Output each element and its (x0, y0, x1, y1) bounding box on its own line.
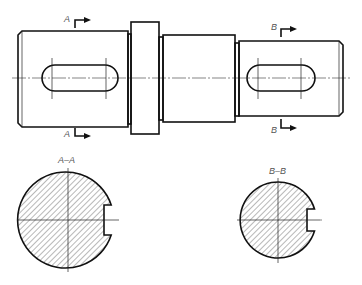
svg-text:A–A: A–A (57, 155, 75, 165)
svg-text:B: B (271, 125, 277, 135)
right-shaft-section (239, 41, 343, 116)
cut-indicator-b-bottom: B (271, 119, 297, 135)
shaft-drawing: A A B B A–A B–B (0, 0, 362, 285)
left-shaft-section (18, 31, 128, 127)
svg-text:A: A (63, 129, 70, 139)
section-b-b: B–B (237, 166, 322, 263)
main-view: A A B B (12, 14, 352, 139)
middle-shaft-section (163, 35, 235, 122)
svg-text:A: A (63, 14, 70, 24)
cut-indicator-a-bottom: A (63, 128, 91, 139)
cut-indicator-a-top: A (63, 14, 91, 28)
section-a-a: A–A (17, 155, 119, 272)
svg-text:B: B (271, 22, 277, 32)
svg-text:B–B: B–B (269, 166, 286, 176)
cut-indicator-b-top: B (271, 22, 297, 37)
